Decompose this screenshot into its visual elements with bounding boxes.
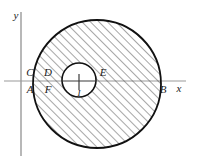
x-axis-label: x: [176, 82, 182, 94]
point-label-B: B: [160, 83, 167, 95]
annulus-diagram: C D E A F B I x y: [0, 0, 197, 164]
point-label-D: D: [43, 66, 52, 78]
point-label-A: A: [26, 83, 34, 95]
annulus-hatch-fill: [0, 0, 197, 164]
point-label-C: C: [26, 66, 34, 78]
point-label-E: E: [99, 66, 107, 78]
point-label-F: F: [44, 83, 52, 95]
y-axis-label: y: [13, 9, 19, 21]
figure-canvas: C D E A F B I x y: [0, 0, 197, 164]
